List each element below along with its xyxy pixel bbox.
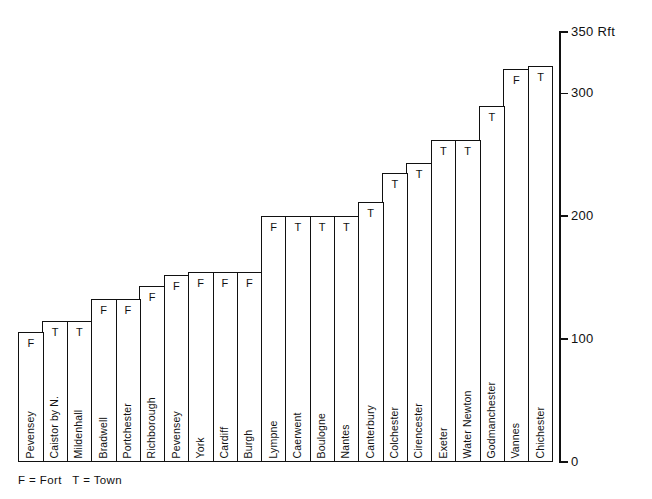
bar-label-text: York [194, 437, 205, 458]
bar-type-marker: F [27, 338, 34, 349]
chart-legend: F = Fort T = Town [18, 474, 122, 487]
bar-label-text: Mildenhall [73, 409, 84, 458]
y-tick-200 [559, 215, 568, 217]
bar-label-text: Canterbury [364, 405, 375, 458]
y-tick-label-200: 200 [571, 209, 594, 222]
bar-type-marker: T [294, 222, 301, 233]
bar-burgh[interactable]: FBurgh [236, 272, 262, 462]
bar-boulogne[interactable]: TBoulogne [309, 216, 335, 462]
bar-label-text: Richborough [146, 397, 157, 458]
bar-label-text: Boulogne [316, 412, 327, 458]
bar-type-marker: F [513, 75, 520, 86]
bar-type-marker: T [52, 327, 59, 338]
bar-label-text: Godmanchester [486, 381, 497, 458]
y-tick-label-350: 350Rft [571, 25, 615, 38]
bar-label-text: Water Newton [461, 390, 472, 458]
y-tick-100 [559, 338, 568, 340]
bar-cirencester[interactable]: TCirencester [406, 163, 432, 462]
bar-label-text: Vannes [510, 422, 521, 458]
bar-label-text: Exeter [437, 427, 448, 458]
bar-type-marker: F [100, 305, 107, 316]
bar-label-text: Lympne [267, 420, 278, 458]
bar-exeter[interactable]: TExeter [431, 140, 457, 462]
y-tick-label-300: 300 [571, 86, 594, 99]
bar-label-text: Chichester [534, 406, 545, 458]
bar-lympne[interactable]: FLympne [261, 216, 287, 462]
bar-label-text: Colchester [388, 406, 399, 458]
bar-cardiff[interactable]: FCardiff [212, 272, 238, 462]
bar-vannes[interactable]: FVannes [503, 69, 529, 462]
bar-type-marker: T [319, 222, 326, 233]
y-tick-label-0: 0 [571, 455, 579, 468]
bar-water-newton[interactable]: TWater Newton [455, 140, 481, 462]
bar-label-text: Nantes [340, 424, 351, 458]
y-axis-line [559, 32, 561, 462]
y-tick-label-100: 100 [571, 332, 594, 345]
bar-type-marker: T [392, 179, 399, 190]
bar-nantes[interactable]: TNantes [334, 216, 360, 462]
bar-label-text: Bradwell [97, 417, 108, 458]
bar-york[interactable]: FYork [188, 272, 214, 462]
bar-label-text: Portchester [121, 403, 132, 458]
bar-label-text: Burgh [243, 429, 254, 458]
bar-type-marker: F [173, 281, 180, 292]
bar-label-text: Pevensey [170, 411, 181, 458]
bar-godmanchester[interactable]: TGodmanchester [479, 106, 505, 462]
y-tick-300 [559, 93, 568, 95]
bar-richborough[interactable]: FRichborough [139, 286, 165, 462]
bar-canterbury[interactable]: TCanterbury [358, 202, 384, 462]
bar-type-marker: T [489, 112, 496, 123]
bar-type-marker: F [197, 278, 204, 289]
bar-mildenhall[interactable]: TMildenhall [67, 321, 93, 462]
bar-type-marker: F [149, 292, 156, 303]
bar-caerwent[interactable]: TCaerwent [285, 216, 311, 462]
bars-layer: FPevenseyTCaistor by N.TMildenhallFBradw… [18, 20, 552, 462]
bar-colchester[interactable]: TColchester [382, 173, 408, 462]
bar-pevensey[interactable]: FPevensey [164, 275, 190, 462]
bar-type-marker: T [416, 169, 423, 180]
bar-type-marker: F [222, 278, 229, 289]
bar-portchester[interactable]: FPortchester [115, 299, 141, 462]
y-tick-0 [559, 461, 568, 463]
bar-type-marker: T [76, 327, 83, 338]
bar-label-text: Pevensey [24, 411, 35, 458]
bar-label-text: Cardiff [219, 426, 230, 458]
bar-label-text: Cirencester [413, 403, 424, 458]
bar-type-marker: T [464, 146, 471, 157]
bar-label-text: Caerwent [291, 412, 302, 458]
y-tick-350 [559, 31, 568, 33]
bar-type-marker: T [537, 72, 544, 83]
bar-label-text: Caistor by N. [49, 395, 60, 458]
bar-type-marker: F [125, 305, 132, 316]
bar-type-marker: F [246, 278, 253, 289]
y-axis-unit-label: Rft [598, 24, 616, 39]
bar-pevensey[interactable]: FPevensey [18, 332, 44, 462]
bar-type-marker: T [367, 208, 374, 219]
bar-type-marker: T [440, 146, 447, 157]
bar-caistor-by-n[interactable]: TCaistor by N. [42, 321, 68, 462]
bar-bradwell[interactable]: FBradwell [91, 299, 117, 462]
bar-chichester[interactable]: TChichester [528, 66, 554, 462]
bar-type-marker: T [343, 222, 350, 233]
bar-type-marker: F [270, 222, 277, 233]
bar-chart: FPevenseyTCaistor by N.TMildenhallFBradw… [0, 0, 652, 499]
